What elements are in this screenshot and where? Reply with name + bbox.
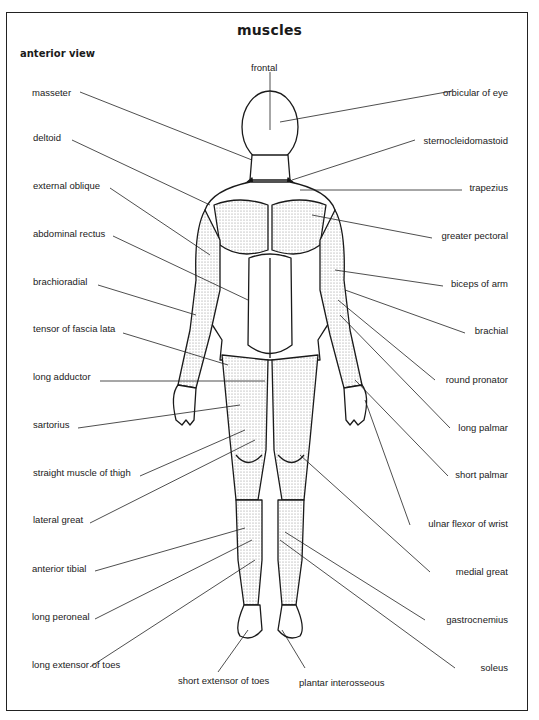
- anatomy-figure: [0, 0, 539, 720]
- body-outline: [173, 91, 366, 638]
